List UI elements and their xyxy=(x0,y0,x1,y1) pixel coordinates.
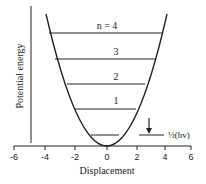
svg-text:2: 2 xyxy=(134,152,139,162)
x-axis-label: Displacement xyxy=(80,165,135,176)
x-ticks xyxy=(14,146,191,150)
x-tick-labels: -6 -4 -2 0 2 4 6 xyxy=(10,152,194,162)
svg-text:-6: -6 xyxy=(10,152,18,162)
svg-text:3: 3 xyxy=(114,46,119,57)
svg-text:-4: -4 xyxy=(41,152,49,162)
svg-text:1: 1 xyxy=(114,95,119,106)
svg-text:-2: -2 xyxy=(71,152,79,162)
svg-text:n = 4: n = 4 xyxy=(97,20,118,31)
arrow-head-icon xyxy=(146,128,152,134)
svg-text:2: 2 xyxy=(114,71,119,82)
y-axis-label: Potential energy xyxy=(14,43,25,108)
svg-text:0: 0 xyxy=(104,152,109,162)
energy-levels xyxy=(49,33,162,135)
svg-text:4: 4 xyxy=(162,152,167,162)
oscillator-diagram: -6 -4 -2 0 2 4 6 Displacement Potential … xyxy=(0,0,206,184)
zero-point-label: ½(hv) xyxy=(168,130,190,140)
svg-text:6: 6 xyxy=(188,152,193,162)
